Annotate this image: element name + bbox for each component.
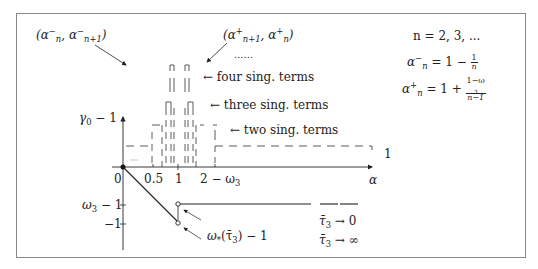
omega-star-label: ω*(τ̄3) − 1 [207, 230, 268, 242]
omega-star-pointer [184, 228, 201, 239]
four-terms-region [170, 65, 189, 92]
two-terms-region [152, 125, 217, 167]
alpha-plus-definition: α+n = 1 + 1−ω3n−1 [402, 77, 486, 102]
y-tick-neg-1: −1 [104, 218, 122, 230]
x-tick-0: 0 [114, 173, 122, 185]
y-tick-omega3-minus-1: ω3 − 1 [82, 199, 122, 211]
three-terms-region [166, 102, 193, 167]
tau-zero-pointer [184, 210, 201, 220]
omega-star-open-point [176, 221, 180, 225]
tau-zero-label: τ̄3 → 0 [319, 215, 356, 227]
x-tick-1: 1 [175, 173, 183, 185]
three-terms-label: ← three sing. terms [210, 99, 328, 111]
four-terms-label: ← four sing. terms [203, 71, 314, 83]
one-term-label: 1 [384, 148, 392, 160]
tau-zero-open-point [176, 202, 180, 206]
left-interval-label: (α−n, α−n+1) [36, 29, 106, 41]
ellipsis-label: ...... [234, 50, 253, 60]
tau-inf-label: τ̄3 → ∞ [319, 234, 359, 246]
x-tick-2-minus-omega3: 2 − ω3 [200, 173, 240, 185]
x-axis-label: α [369, 174, 377, 186]
x-tick-0-5: 0.5 [144, 173, 163, 185]
right-pointer-arrow [207, 43, 227, 62]
left-pointer-arrow [95, 45, 126, 65]
two-terms-label: ← two sing. terms [230, 124, 338, 136]
right-interval-label: (α+n+1, α+n) [223, 29, 293, 41]
y-axis-label: γ0 − 1 [79, 112, 117, 124]
alpha-minus-definition: α−n = 1 − 1n [407, 54, 478, 71]
one-term-dashed-region [126, 146, 372, 167]
n-range-label: n = 2, 3, ... [413, 30, 480, 42]
